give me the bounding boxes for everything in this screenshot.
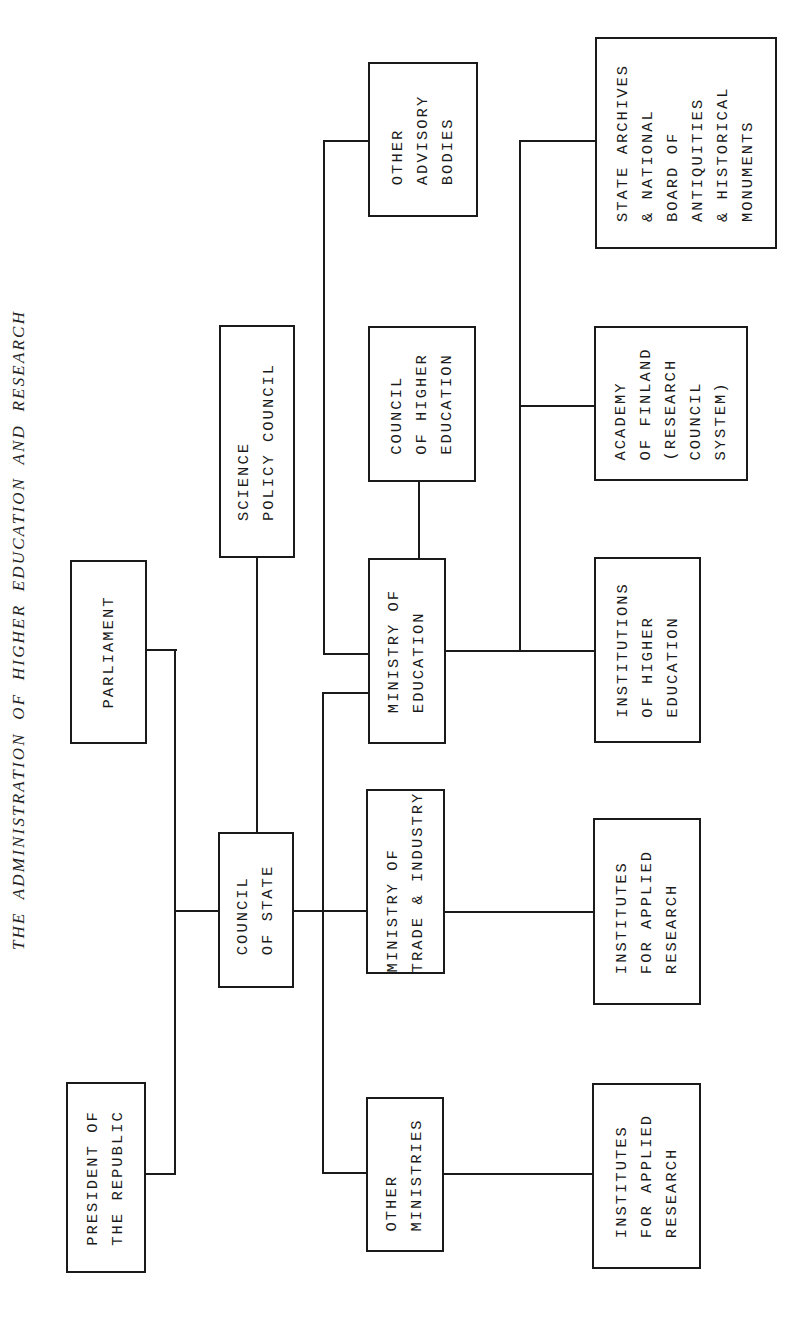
connector <box>519 140 521 651</box>
connector <box>322 692 369 694</box>
diagram-title-text: THE ADMINISTRATION OF HIGHER EDUCATION A… <box>9 310 29 950</box>
node-council-higher-education: COUNCIL OF HIGHER EDUCATION <box>368 326 476 482</box>
connector <box>174 910 219 912</box>
connector <box>322 1172 367 1174</box>
connector <box>519 140 596 142</box>
node-label: OTHER ADVISORY BODIES <box>386 94 461 184</box>
node-institutes-applied-research-1: INSTITUTES FOR APPLIED RESEARCH <box>592 1083 701 1269</box>
node-academy-of-finland: ACADEMY OF FINLAND (RESEARCH COUNCIL SYS… <box>594 326 748 481</box>
connector <box>323 653 369 655</box>
node-label: PRESIDENT OF THE REPUBLIC <box>81 1110 131 1246</box>
node-council-of-state: COUNCIL OF STATE <box>218 832 294 988</box>
node-label: PARLIAMENT <box>96 595 121 708</box>
node-other-advisory-bodies: OTHER ADVISORY BODIES <box>368 62 478 217</box>
node-label: INSTITUTES FOR APPLIED RESEARCH <box>609 1114 684 1238</box>
node-president: PRESIDENT OF THE REPUBLIC <box>66 1082 146 1273</box>
node-institutions-higher-education: INSTITUTIONS OF HIGHER EDUCATION <box>594 557 701 743</box>
node-label: INSTITUTIONS OF HIGHER EDUCATION <box>610 582 685 718</box>
node-label: ACADEMY OF FINLAND (RESEARCH COUNCIL SYS… <box>609 347 734 460</box>
diagram-title: THE ADMINISTRATION OF HIGHER EDUCATION A… <box>0 0 40 1323</box>
connector <box>418 480 420 559</box>
node-institutes-applied-research-2: INSTITUTES FOR APPLIED RESEARCH <box>593 818 701 1005</box>
node-science-policy-council: SCIENCE POLICY COUNCIL <box>219 325 295 558</box>
node-label: OTHER MINISTRIES <box>380 1118 430 1231</box>
connector <box>322 692 324 1174</box>
node-other-ministries: OTHER MINISTRIES <box>366 1097 444 1252</box>
connector <box>519 405 595 407</box>
connector <box>146 649 177 651</box>
node-label: MINISTRY OF TRADE & INDUSTRY <box>381 791 431 972</box>
connector <box>442 1173 593 1175</box>
connector <box>144 1173 174 1175</box>
connector <box>443 911 594 913</box>
node-ministry-education: MINISTRY OF EDUCATION <box>368 558 446 744</box>
node-label: STATE ARCHIVES & NATIONAL BOARD OF ANTIQ… <box>611 64 761 222</box>
node-ministry-trade-industry: MINISTRY OF TRADE & INDUSTRY <box>366 789 445 974</box>
connector <box>323 140 369 142</box>
node-label: SCIENCE POLICY COUNCIL <box>232 362 282 520</box>
connector <box>174 649 176 1175</box>
node-label: INSTITUTES FOR APPLIED RESEARCH <box>610 849 685 973</box>
connector <box>292 910 367 912</box>
node-state-archives: STATE ARCHIVES & NATIONAL BOARD OF ANTIQ… <box>595 37 777 249</box>
node-label: COUNCIL OF HIGHER EDUCATION <box>385 353 460 455</box>
node-label: COUNCIL OF STATE <box>231 865 281 955</box>
node-parliament: PARLIAMENT <box>70 560 147 744</box>
connector <box>323 140 325 654</box>
connector <box>256 556 258 833</box>
node-label: MINISTRY OF EDUCATION <box>382 589 432 713</box>
